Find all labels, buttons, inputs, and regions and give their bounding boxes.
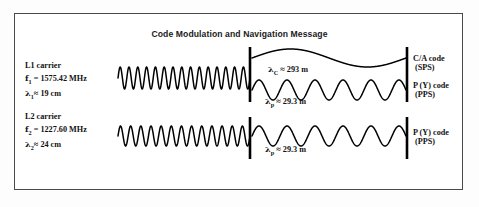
l1-frequency-subscript: 1	[29, 78, 32, 85]
lambda-c-annotation: λC ≈ 293 m	[268, 65, 308, 76]
l2-frequency-subscript: 2	[29, 129, 32, 136]
l2-wavelength-value: ≈ 24 cm	[34, 140, 61, 149]
ca-code-name: C/A code	[413, 54, 445, 63]
lambda-p-l2-value: ≈ 29.3 m	[276, 145, 306, 154]
l1-carrier-name: L1 carrier	[25, 62, 87, 71]
py-code-l1-label: P (Y) code (PPS)	[413, 82, 449, 99]
lambda-p-l2-annotation: λp ≈ 29.3 m	[265, 145, 306, 156]
l2-carrier-name: L2 carrier	[25, 113, 87, 122]
ca-code-service: (SPS)	[413, 64, 445, 73]
l1-frequency: f1 = 1575.42 MHz	[25, 74, 87, 85]
py-code-l2-service: (PPS)	[413, 138, 449, 147]
lambda-p-l1-value: ≈ 29.3 m	[276, 97, 306, 106]
lambda-c-value: ≈ 293 m	[280, 65, 308, 74]
l1-wavelength: λ1≈ 19 cm	[25, 89, 87, 100]
l1-carrier-label-group: L1 carrier f1 = 1575.42 MHz λ1≈ 19 cm	[25, 62, 87, 103]
lambda-p-l1-subscript: p	[271, 101, 274, 108]
py-code-l2-name: P (Y) code	[413, 128, 449, 137]
wave-l2-carrier	[118, 126, 250, 146]
l1-wavelength-value: ≈ 19 cm	[34, 89, 61, 98]
py-code-l1-service: (PPS)	[413, 91, 449, 100]
l1-frequency-value: = 1575.42 MHz	[34, 74, 87, 83]
ca-code-label: C/A code (SPS)	[413, 55, 445, 72]
lambda-p-l1-annotation: λp ≈ 29.3 m	[265, 97, 306, 108]
l2-frequency: f2 = 1227.60 MHz	[25, 125, 87, 136]
py-code-l2-label: P (Y) code (PPS)	[413, 129, 449, 146]
lambda-c-subscript: C	[274, 69, 278, 76]
wave-p-y-code-on-l2-pps	[252, 126, 406, 146]
l2-wavelength: λ2≈ 24 cm	[25, 140, 87, 151]
figure-canvas: Code Modulation and Navigation Message L…	[0, 0, 479, 207]
py-code-l1-name: P (Y) code	[413, 81, 449, 90]
lambda-p-l2-subscript: p	[271, 149, 274, 156]
wave-l1-carrier	[118, 67, 250, 89]
waveform-plot	[0, 0, 479, 207]
l2-frequency-value: = 1227.60 MHz	[34, 125, 87, 134]
l2-carrier-label-group: L2 carrier f2 = 1227.60 MHz λ2≈ 24 cm	[25, 113, 87, 154]
